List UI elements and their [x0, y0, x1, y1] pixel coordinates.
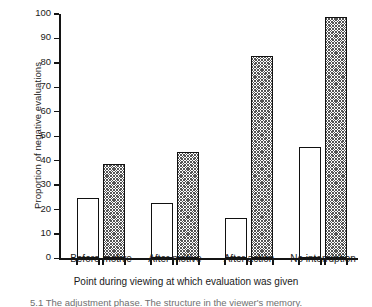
- y-tick-label: 30: [25, 178, 51, 189]
- y-tick-mark: [54, 87, 59, 88]
- y-tick-label: 10: [25, 227, 51, 238]
- bar-before-motive-hatched: [103, 164, 125, 258]
- y-tick-label: 100: [25, 7, 51, 18]
- x-category-label-no-interruption: No interruption: [243, 253, 372, 264]
- y-tick-mark: [54, 209, 59, 210]
- figure-caption: 5.1 The adjustment phase. The structure …: [30, 297, 372, 307]
- y-tick-label: 60: [25, 105, 51, 116]
- y-tick-mark: [54, 136, 59, 137]
- y-tick-mark: [54, 160, 59, 161]
- y-tick-label: 50: [25, 129, 51, 140]
- plot-area: 0102030405060708090100: [59, 14, 358, 260]
- y-tick-mark: [54, 62, 59, 63]
- bar-before-motive-open: [77, 198, 99, 258]
- bar-after-motive-hatched: [177, 152, 199, 259]
- y-tick-mark: [54, 233, 59, 234]
- y-tick-mark: [54, 38, 59, 39]
- bar-after-action-hatched: [251, 56, 273, 258]
- bar-chart-figure: Proportion of negative evaluations 01020…: [0, 0, 372, 307]
- x-axis-title: Point during viewing at which evaluation…: [0, 276, 372, 287]
- bar-no-interruption-open: [299, 147, 321, 259]
- y-tick-label: 20: [25, 203, 51, 214]
- y-tick-label: 80: [25, 56, 51, 67]
- bar-after-motive-open: [151, 203, 173, 258]
- bar-no-interruption-hatched: [325, 17, 347, 258]
- y-tick-label: 40: [25, 154, 51, 165]
- y-tick-mark: [54, 111, 59, 112]
- y-tick-mark: [54, 184, 59, 185]
- y-tick-label: 90: [25, 31, 51, 42]
- y-tick-label: 70: [25, 80, 51, 91]
- y-axis-line: [59, 14, 61, 260]
- y-tick-mark: [54, 13, 59, 14]
